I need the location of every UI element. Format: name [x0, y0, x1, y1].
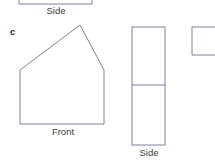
figure-canvas: c Side Front Side — [0, 0, 215, 167]
figure-label-front: Front — [22, 126, 104, 137]
side-top-rectangle — [19, 0, 92, 4]
shapes-svg — [0, 0, 215, 167]
part-label-c: c — [10, 27, 15, 37]
front-pentagon — [20, 25, 104, 124]
side-divided-rectangle — [132, 27, 165, 145]
figure-label-side-top: Side — [20, 5, 92, 16]
figure-label-side-divided: Side — [126, 147, 172, 158]
side-partial-right-rectangle — [192, 27, 215, 55]
